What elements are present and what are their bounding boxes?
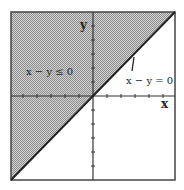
boundary-label: x − y = 0	[126, 75, 173, 86]
region-label: x − y ≤ 0	[26, 66, 73, 77]
x-axis-label: x	[161, 97, 169, 111]
label-pointer	[132, 57, 134, 71]
y-axis-label: y	[79, 18, 88, 32]
inequality-graph: y x x − y ≤ 0 x − y = 0	[0, 0, 184, 190]
